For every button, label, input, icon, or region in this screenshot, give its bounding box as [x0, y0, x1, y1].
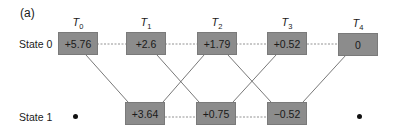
- state-0-t1-box: +2.6: [126, 32, 166, 55]
- state-1-t2-box: +0.75: [196, 102, 236, 125]
- time-label-t0: T0: [58, 16, 98, 31]
- state-0-t2-box: +1.79: [197, 32, 237, 55]
- state-1-t1-box: +3.64: [125, 102, 165, 125]
- state-1-label: State 1: [19, 111, 52, 123]
- state-1-t0-dot: [73, 114, 78, 119]
- state-0-t3-box: +0.52: [267, 32, 307, 55]
- state-0-t0-box: +5.76: [58, 32, 98, 55]
- time-label-t2: T2: [197, 16, 237, 31]
- time-label-t4: T4: [338, 17, 378, 32]
- state-0-label: State 0: [19, 38, 52, 50]
- time-label-t1: T1: [126, 16, 166, 31]
- time-label-t3: T3: [267, 16, 307, 31]
- state-1-t3-box: −0.52: [267, 102, 307, 125]
- state-0-t4-box: 0: [338, 33, 378, 56]
- state-1-t4-dot: [357, 114, 362, 119]
